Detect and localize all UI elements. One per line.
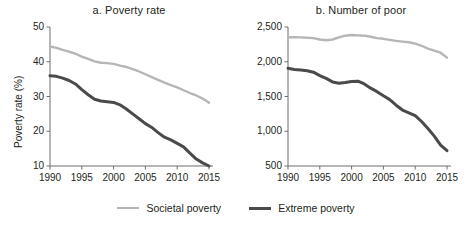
y-tick-label: 50 xyxy=(33,21,45,32)
chart-panel-number-of-poor: b. Number of poor Millions 5001,0001,500… xyxy=(236,0,472,192)
x-tick-label: 1990 xyxy=(277,172,300,183)
legend-label-societal: Societal poverty xyxy=(146,202,221,214)
series-line-extreme-poverty xyxy=(50,76,209,166)
y-tick-label: 1,500 xyxy=(257,91,282,102)
y-tick-label: 2,500 xyxy=(257,21,282,32)
y-tick-label: 40 xyxy=(33,56,45,67)
legend-label-extreme: Extreme poverty xyxy=(278,202,354,214)
legend-item-extreme-poverty: Extreme poverty xyxy=(249,202,354,214)
y-tick-label: 1,000 xyxy=(257,125,282,136)
x-tick-label: 1995 xyxy=(309,172,332,183)
y-tick-label: 500 xyxy=(265,160,282,171)
chart-legend: Societal poverty Extreme poverty xyxy=(0,196,472,220)
x-tick-label: 2010 xyxy=(404,172,427,183)
series-line-extreme-poverty xyxy=(288,68,447,150)
x-tick-label: 2015 xyxy=(198,172,221,183)
poverty-figure: a. Poverty rate Poverty rate (%) 1020304… xyxy=(0,0,472,225)
x-tick-label: 2000 xyxy=(340,172,363,183)
legend-line-extreme-icon xyxy=(249,207,271,210)
y-tick-label: 2,000 xyxy=(257,56,282,67)
y-tick-label: 10 xyxy=(33,160,45,171)
y-tick-label: 20 xyxy=(33,125,45,136)
series-line-societal-poverty xyxy=(50,46,209,102)
y-tick-label: 30 xyxy=(33,91,45,102)
x-tick-label: 1995 xyxy=(71,172,94,183)
panel-a-plot: 1020304050199019952000200520102015 xyxy=(0,0,236,192)
legend-item-societal-poverty: Societal poverty xyxy=(117,202,221,214)
x-tick-label: 2010 xyxy=(166,172,189,183)
series-line-societal-poverty xyxy=(288,35,447,58)
legend-line-societal-icon xyxy=(117,207,139,209)
x-tick-label: 2000 xyxy=(102,172,125,183)
x-tick-label: 2015 xyxy=(436,172,459,183)
x-tick-label: 2005 xyxy=(372,172,395,183)
x-tick-label: 2005 xyxy=(134,172,157,183)
panel-b-plot: 5001,0001,5002,0002,50019901995200020052… xyxy=(236,0,472,192)
chart-panel-poverty-rate: a. Poverty rate Poverty rate (%) 1020304… xyxy=(0,0,236,192)
x-tick-label: 1990 xyxy=(39,172,62,183)
